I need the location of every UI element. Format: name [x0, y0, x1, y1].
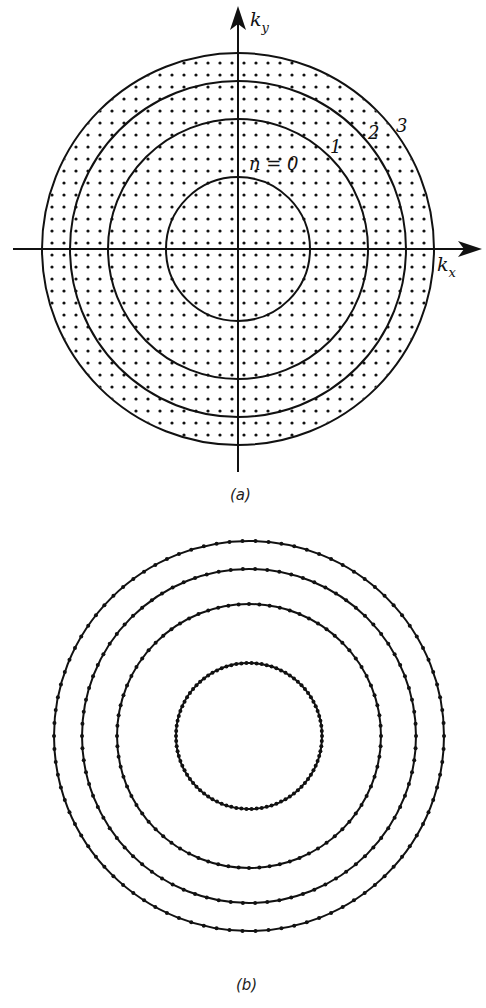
- lattice-point: [278, 253, 281, 256]
- lattice-point: [62, 121, 65, 124]
- lattice-point: [326, 289, 329, 292]
- lattice-point: [350, 145, 353, 148]
- lattice-point: [98, 157, 101, 160]
- lattice-point: [158, 409, 161, 412]
- lattice-point: [290, 241, 293, 244]
- lattice-point: [194, 109, 197, 112]
- lattice-point: [338, 409, 341, 412]
- state-dot: [288, 860, 292, 864]
- lattice-point: [362, 145, 365, 148]
- lattice-point: [314, 325, 317, 328]
- lattice-point: [398, 253, 401, 256]
- lattice-point: [86, 397, 89, 400]
- state-dot: [250, 807, 254, 811]
- lattice-point: [134, 205, 137, 208]
- lattice-point: [422, 97, 425, 100]
- lattice-point: [38, 289, 41, 292]
- lattice-point: [158, 385, 161, 388]
- lattice-point: [338, 217, 341, 220]
- lattice-point: [422, 85, 425, 88]
- state-dot: [377, 755, 381, 759]
- state-dot: [220, 802, 224, 806]
- lattice-point: [422, 121, 425, 124]
- lattice-point: [242, 61, 245, 64]
- lattice-point: [422, 277, 425, 280]
- circle-label-2: 2: [367, 122, 379, 143]
- state-dot: [279, 926, 283, 930]
- state-dot: [363, 891, 367, 895]
- state-dot: [177, 552, 181, 556]
- lattice-point: [242, 289, 245, 292]
- state-dot: [373, 883, 377, 887]
- state-dot: [403, 794, 407, 798]
- state-dot: [360, 665, 364, 669]
- lattice-point: [146, 409, 149, 412]
- state-dot: [288, 795, 292, 799]
- state-dot: [180, 764, 184, 768]
- lattice-point: [170, 85, 173, 88]
- state-dot: [63, 670, 67, 674]
- lattice-point: [362, 253, 365, 256]
- lattice-point: [86, 301, 89, 304]
- lattice-point: [134, 253, 137, 256]
- lattice-point: [230, 409, 233, 412]
- lattice-point: [254, 145, 257, 148]
- lattice-point: [50, 157, 53, 160]
- state-dot: [140, 606, 144, 610]
- lattice-point: [218, 121, 221, 124]
- lattice-point: [230, 325, 233, 328]
- lattice-point: [302, 97, 305, 100]
- state-dot: [311, 700, 315, 704]
- lattice-point: [110, 49, 113, 52]
- lattice-point: [218, 61, 221, 64]
- state-dot: [102, 865, 106, 869]
- lattice-point: [146, 253, 149, 256]
- lattice-point: [146, 157, 149, 160]
- state-dot: [278, 862, 282, 866]
- lattice-point: [38, 157, 41, 160]
- state-dot: [198, 788, 202, 792]
- lattice-point: [218, 313, 221, 316]
- lattice-point: [362, 385, 365, 388]
- lattice-point: [314, 133, 317, 136]
- lattice-point: [98, 169, 101, 172]
- lattice-point: [266, 397, 269, 400]
- lattice-point: [374, 229, 377, 232]
- lattice-point: [74, 265, 77, 268]
- state-dot: [317, 552, 321, 556]
- lattice-point: [338, 289, 341, 292]
- lattice-point: [218, 421, 221, 424]
- lattice-point: [134, 289, 137, 292]
- lattice-point: [170, 325, 173, 328]
- lattice-point: [158, 229, 161, 232]
- lattice-point: [86, 49, 89, 52]
- lattice-point: [194, 73, 197, 76]
- lattice-point: [422, 157, 425, 160]
- state-dot: [270, 803, 274, 807]
- lattice-point: [218, 409, 221, 412]
- lattice-point: [122, 349, 125, 352]
- lattice-point: [314, 409, 317, 412]
- lattice-point: [218, 241, 221, 244]
- state-dot: [334, 877, 338, 881]
- lattice-point: [254, 349, 257, 352]
- lattice-point: [38, 229, 41, 232]
- lattice-point: [62, 193, 65, 196]
- lattice-point: [350, 349, 353, 352]
- lattice-point: [122, 61, 125, 64]
- state-dot: [180, 704, 184, 708]
- lattice-point: [98, 217, 101, 220]
- lattice-point: [158, 73, 161, 76]
- state-dot: [320, 739, 324, 743]
- lattice-point: [134, 349, 137, 352]
- state-dot: [289, 896, 293, 900]
- lattice-point: [254, 217, 257, 220]
- state-dot: [379, 734, 383, 738]
- lattice-point: [230, 253, 233, 256]
- lattice-point: [122, 337, 125, 340]
- lattice-point: [206, 289, 209, 292]
- state-dot: [217, 898, 221, 902]
- lattice-point: [50, 289, 53, 292]
- lattice-point: [254, 229, 257, 232]
- lattice-point: [122, 301, 125, 304]
